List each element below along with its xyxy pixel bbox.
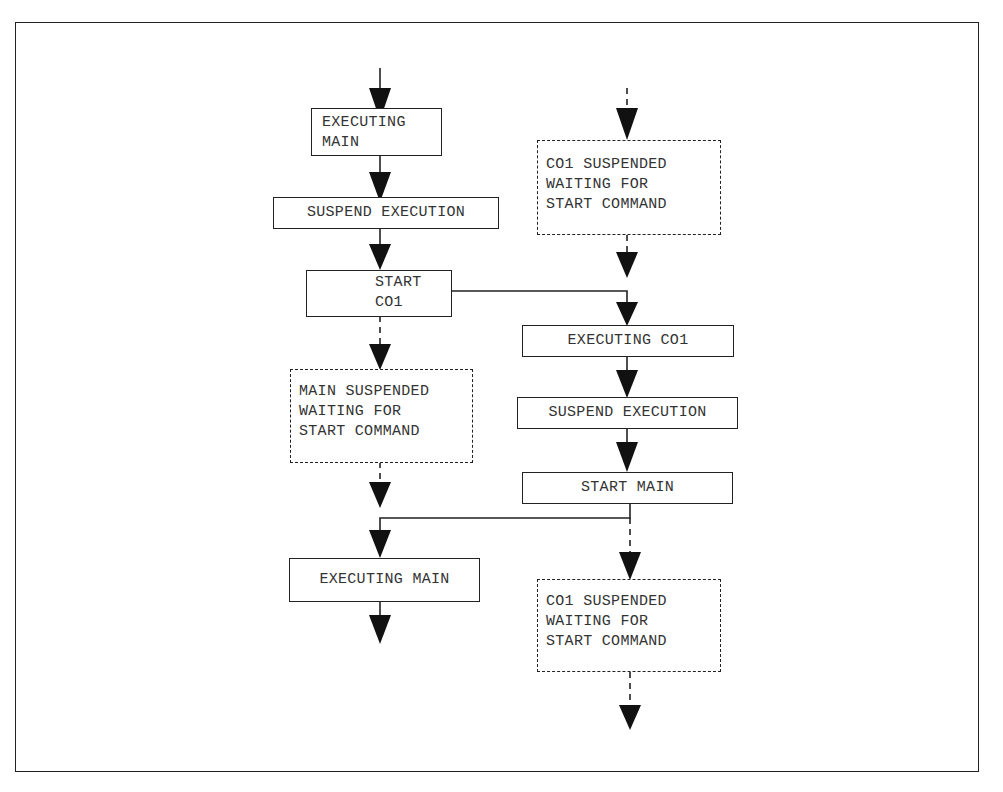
arrow-down-icon	[369, 482, 391, 508]
arrow-down-icon	[369, 530, 391, 558]
co1-suspend-execution-box: SUSPEND EXECUTION	[517, 397, 738, 429]
arrow-down-icon	[616, 252, 638, 278]
main-suspend-execution-box: SUSPEND EXECUTION	[273, 197, 499, 229]
main-suspended-waiting-box: MAIN SUSPENDED WAITING FOR START COMMAND	[290, 369, 473, 463]
arrow-down-icon	[619, 705, 641, 730]
main-start-co1-box: START CO1	[306, 270, 452, 317]
arrow-down-icon	[369, 244, 391, 270]
co1-suspended-waiting-again-box: CO1 SUSPENDED WAITING FOR START COMMAND	[537, 579, 721, 672]
arrow-down-icon	[616, 370, 638, 398]
arrow-down-icon	[616, 442, 638, 472]
main-executing-again-box: EXECUTING MAIN	[289, 558, 480, 602]
arrow-down-icon	[619, 552, 641, 580]
co1-executing-box: EXECUTING CO1	[522, 325, 734, 357]
arrow-down-icon	[369, 615, 391, 644]
main-executing-box: EXECUTING MAIN	[311, 108, 442, 156]
co1-start-main-box: START MAIN	[522, 472, 733, 504]
arrow-down-icon	[616, 302, 638, 326]
arrow-down-icon	[616, 108, 638, 140]
connectors	[0, 0, 1003, 792]
arrow-down-icon	[369, 344, 391, 370]
co1-suspended-waiting-box: CO1 SUSPENDED WAITING FOR START COMMAND	[537, 140, 721, 235]
